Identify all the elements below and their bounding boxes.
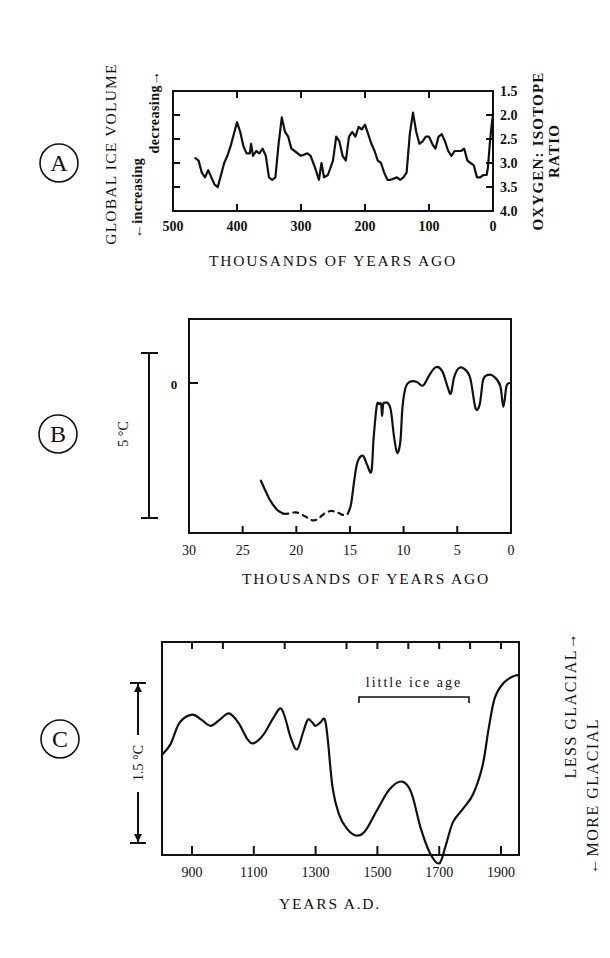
panel-b: B 5 °C 0 302520151050 THOUSANDS OF YEARS… [39,319,514,587]
panel-a-x-tick-labels: 5004003002001000 [163,219,497,234]
panel-a-y-tick-label: 1.5 [500,84,518,99]
panel-b-plot-frame [189,319,511,533]
panel-b-scale-label: 5 °C [116,421,131,446]
panel-a-y-tick-label: 4.0 [500,204,518,219]
panel-b-ticks [243,526,458,533]
panel-c-letter: C [52,726,68,752]
panel-a-x-tick-label: 100 [419,219,440,234]
panel-b-letter: B [50,421,66,447]
panel-c-temperature-curve [162,675,519,864]
panel-a-plot-frame [173,91,493,211]
panel-a-y-tick-label: 3.0 [500,156,518,171]
panel-a-x-tick-label: 500 [163,219,184,234]
panel-a-y-tick-labels: 1.52.02.53.03.54.0 [500,84,518,219]
panel-a-x-tick-label: 0 [490,219,497,234]
panel-b-x-tick-label: 25 [236,543,250,558]
panel-a-x-axis-title: THOUSANDS OF YEARS AGO [209,252,457,269]
panel-a-letter: A [50,150,68,176]
panel-a-right-label-1: OXYGEN: ISOTOPE [530,72,546,231]
panel-c-x-tick-label: 1700 [425,865,453,880]
panel-c-x-tick-label: 1100 [240,865,267,880]
panel-c-x-tick-label: 900 [182,865,203,880]
panel-b-x-tick-label: 10 [397,543,411,558]
panel-a-increasing-label: ←increasing [130,158,145,239]
panel-c-more-glacial-label: ←MORE GLACIAL [584,718,601,874]
panel-a-x-tick-label: 200 [355,219,376,234]
figure-canvas: A GLOBAL ICE VOLUME ←increasing decreasi… [0,0,610,958]
panel-b-x-tick-label: 0 [507,543,514,558]
panel-b-x-tick-label: 5 [454,543,461,558]
panel-c-x-tick-label: 1500 [363,865,391,880]
panel-b-x-axis-title: THOUSANDS OF YEARS AGO [242,570,490,587]
panel-c-x-axis-title: YEARS A.D. [279,895,381,912]
panel-b-x-tick-labels: 302520151050 [182,543,514,558]
little-ice-age-label: little ice age [366,675,462,690]
panel-c-x-tick-label: 1900 [487,865,515,880]
panel-b-zero-label: 0 [171,377,178,392]
panel-c-x-tick-labels: 90011001300150017001900 [182,865,516,880]
panel-a-x-tick-label: 400 [227,219,248,234]
panel-c-scale-label: 1.5 °C [131,745,146,781]
panel-c-plot-frame [162,642,519,855]
panel-c-x-tick-label: 1300 [302,865,330,880]
panel-c-less-glacial-label: LESS GLACIAL→ [562,631,579,778]
panel-a: A GLOBAL ICE VOLUME ←increasing decreasi… [40,63,562,269]
panel-b-x-tick-label: 15 [343,543,357,558]
panel-b-temperature-curve [348,367,511,514]
panel-a-right-label-2: RATIO [546,124,562,178]
panel-c: C 1.5 °C 90011001300150017001900 little … [41,631,601,912]
panel-a-y-tick-label: 2.0 [500,108,518,123]
panel-a-left-label: GLOBAL ICE VOLUME [102,63,119,244]
panel-a-ticks [173,91,493,211]
panel-a-isotope-curve [195,113,493,187]
panel-b-temperature-curve-uncertain [283,511,347,520]
panel-a-y-tick-label: 2.5 [500,132,518,147]
little-ice-age-bracket [359,697,469,703]
panel-a-y-tick-label: 3.5 [500,180,518,195]
panel-a-decreasing-label: decreasing→ [147,70,162,153]
panel-a-x-tick-label: 300 [291,219,312,234]
panel-b-x-tick-label: 20 [289,543,303,558]
panel-c-ticks [192,642,501,855]
panel-b-scale-bar [141,353,158,518]
panel-b-x-tick-label: 30 [182,543,196,558]
panel-b-temperature-curve-early [261,481,284,514]
